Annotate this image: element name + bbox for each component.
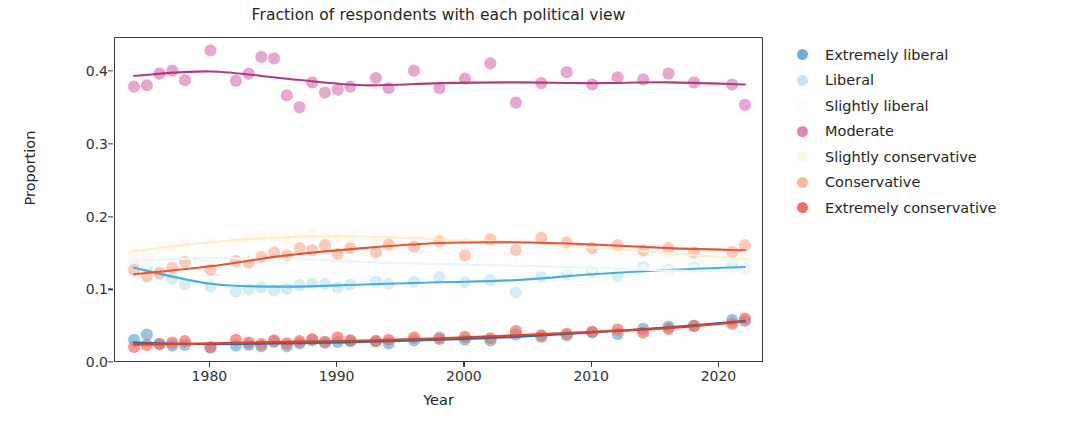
data-point [255,251,267,263]
y-tick-mark [108,289,113,290]
data-point [281,233,293,245]
data-point [281,89,293,101]
legend-label: Slightly liberal [825,98,929,114]
legend-marker-icon [797,49,808,60]
scatter-layer [128,44,751,354]
y-tick-mark [108,71,113,72]
x-axis-label: Year [114,392,763,408]
y-tick-label: 0.0 [64,354,108,370]
data-point [739,251,751,263]
y-tick-label: 0.2 [64,209,108,225]
chart-title: Fraction of respondents with each politi… [114,6,763,24]
legend-label: Extremely liberal [825,47,948,63]
data-point [662,68,674,80]
data-point [293,242,305,254]
legend-label: Moderate [825,123,894,139]
y-tick-mark [108,361,113,362]
x-tick-label: 1990 [297,368,377,384]
x-tick-mark [336,362,337,367]
legend-item[interactable]: Extremely conservative [797,195,1087,221]
data-point [179,74,191,86]
data-point [433,235,445,247]
legend-item[interactable]: Slightly conservative [797,144,1087,170]
data-point [408,241,420,253]
data-point [383,259,395,271]
data-point [332,232,344,244]
data-point [408,331,420,343]
data-point [510,244,522,256]
x-tick-mark [209,362,210,367]
data-point [268,334,280,346]
data-point [306,227,318,239]
chart-figure: Fraction of respondents with each politi… [0,0,1092,439]
data-point [268,230,280,242]
legend-marker-icon [797,126,808,137]
legend-marker-icon [797,75,808,86]
legend-item[interactable]: Moderate [797,119,1087,145]
legend-item[interactable]: Liberal [797,68,1087,94]
y-tick-label: 0.4 [64,63,108,79]
data-point [484,57,496,69]
data-point [561,262,573,274]
data-point [306,257,318,269]
data-point [166,273,178,285]
data-point [293,101,305,113]
data-point [459,249,471,261]
data-point [293,229,305,241]
legend-marker-icon [797,151,808,162]
series-points-3 [128,44,751,113]
data-point [510,286,522,298]
legend-label: Extremely conservative [825,200,996,216]
x-tick-mark [718,362,719,367]
legend-label: Liberal [825,72,874,88]
data-point [408,275,420,287]
plot-area [114,37,763,362]
legend-item[interactable]: Slightly liberal [797,93,1087,119]
data-point [370,275,382,287]
legend-label: Slightly conservative [825,149,977,165]
y-tick-mark [108,216,113,217]
y-axis-label: Proportion [22,98,38,238]
data-point [128,81,140,93]
legend-marker-icon [797,177,808,188]
data-point [166,65,178,77]
x-tick-label: 1980 [169,368,249,384]
plot-canvas [115,38,763,362]
data-point [141,79,153,91]
y-tick-mark [108,143,113,144]
trendline-layer [134,71,745,344]
y-axis-tick-labels: 0.00.10.20.30.4 [58,0,108,439]
data-point [319,278,331,290]
data-point [128,246,140,258]
data-point [319,86,331,98]
data-point [268,52,280,64]
data-point [408,65,420,77]
data-point [370,233,382,245]
legend-item[interactable]: Conservative [797,170,1087,196]
data-point [332,84,344,96]
data-point [319,239,331,251]
data-point [726,246,738,258]
data-point [293,255,305,267]
data-point [484,233,496,245]
legend-item[interactable]: Extremely liberal [797,42,1087,68]
data-point [484,257,496,269]
data-point [306,244,318,256]
data-point [230,286,242,298]
x-tick-label: 2020 [678,368,758,384]
x-tick-label: 2010 [551,368,631,384]
data-point [739,99,751,111]
legend-label: Conservative [825,174,920,190]
data-point [370,72,382,84]
data-point [561,66,573,78]
data-point [179,335,191,347]
trend-line-3 [134,71,745,85]
data-point [230,75,242,87]
x-tick-mark [463,362,464,367]
x-tick-mark [591,362,592,367]
data-point [166,262,178,274]
chart-legend: Extremely liberalLiberalSlightly liberal… [797,42,1087,221]
y-tick-label: 0.1 [64,281,108,297]
data-point [383,238,395,250]
x-tick-label: 2000 [424,368,504,384]
